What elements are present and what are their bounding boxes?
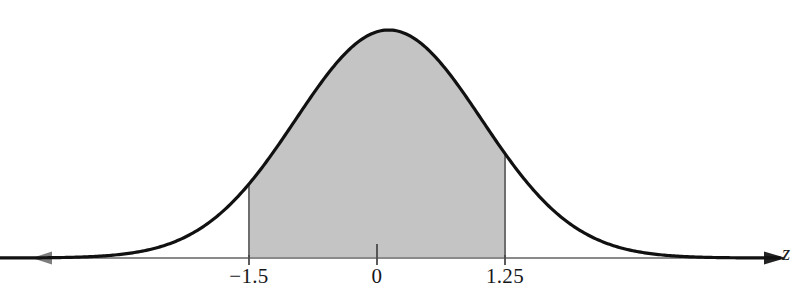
shaded-area-region <box>249 30 505 258</box>
axis-tick-label-upper-bound: 1.25 <box>486 266 524 287</box>
normal-curve-plot <box>0 0 806 307</box>
axis-variable-label: z <box>782 243 790 264</box>
axis-tick-label-lower-bound: −1.5 <box>229 266 268 287</box>
axis-tick-label-center: 0 <box>372 266 383 287</box>
normal-curve-figure: −1.5 0 1.25 z <box>0 0 806 307</box>
